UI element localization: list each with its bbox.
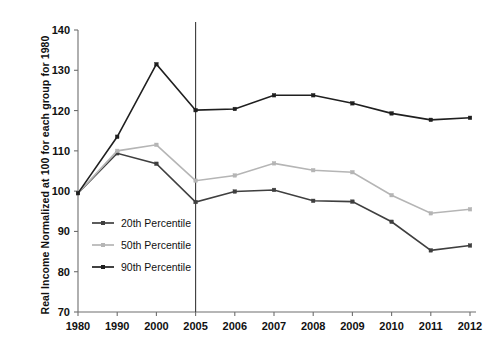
data-point-marker	[429, 118, 433, 122]
data-point-marker	[351, 170, 355, 174]
data-point-marker	[272, 188, 276, 192]
data-point-marker	[194, 108, 198, 112]
legend-item-label: 90th Percentile	[121, 261, 191, 273]
x-tick-label: 2008	[301, 320, 325, 332]
legend-item-label: 20th Percentile	[121, 217, 191, 229]
line-chart: Real Income Normalized at 100 for each g…	[0, 0, 488, 350]
y-tick-label: 120	[52, 105, 70, 117]
data-point-marker	[390, 112, 394, 116]
data-point-marker	[311, 168, 315, 172]
data-point-marker	[76, 191, 80, 195]
data-point-marker	[155, 162, 159, 166]
legend-item: 20th Percentile	[92, 217, 191, 229]
data-point-marker	[390, 193, 394, 197]
data-point-marker	[194, 200, 198, 204]
series-line	[78, 145, 470, 213]
legend-item-label: 50th Percentile	[121, 239, 191, 251]
y-axis: 708090100110120130140	[52, 24, 78, 318]
series-50th-percentile	[76, 143, 472, 215]
x-tick-label: 2011	[419, 320, 443, 332]
data-point-marker	[311, 93, 315, 97]
data-point-marker	[155, 143, 159, 147]
x-axis: 1980199020002005200620072008200920102011…	[66, 312, 482, 332]
series-90th-percentile	[76, 62, 472, 195]
x-tick-label: 2010	[379, 320, 403, 332]
legend-swatch-marker	[101, 265, 105, 269]
series-20th-percentile	[76, 151, 472, 252]
data-point-marker	[233, 107, 237, 111]
y-tick-label: 100	[52, 185, 70, 197]
y-tick-label: 130	[52, 64, 70, 76]
data-point-marker	[351, 102, 355, 106]
data-point-marker	[115, 149, 119, 153]
data-point-marker	[194, 179, 198, 183]
y-tick-label: 80	[58, 266, 70, 278]
data-point-marker	[115, 135, 119, 139]
data-point-marker	[272, 93, 276, 97]
x-tick-label: 2005	[183, 320, 207, 332]
data-point-marker	[468, 244, 472, 248]
x-tick-label: 2012	[458, 320, 482, 332]
plot-area: 708090100110120130140 198019902000200520…	[0, 0, 488, 350]
y-tick-label: 90	[58, 225, 70, 237]
y-tick-label: 140	[52, 24, 70, 36]
data-point-marker	[468, 116, 472, 120]
legend-swatch-marker	[101, 243, 105, 247]
legend-item: 50th Percentile	[92, 239, 191, 251]
data-point-marker	[468, 207, 472, 211]
data-point-marker	[390, 220, 394, 224]
series-line	[78, 64, 470, 193]
x-tick-label: 1990	[105, 320, 129, 332]
y-tick-label: 70	[58, 306, 70, 318]
x-tick-label: 2009	[340, 320, 364, 332]
data-point-marker	[351, 200, 355, 204]
legend-item: 90th Percentile	[92, 261, 191, 273]
data-point-marker	[233, 190, 237, 194]
x-tick-label: 2006	[223, 320, 247, 332]
data-point-marker	[272, 162, 276, 166]
y-tick-label: 110	[52, 145, 70, 157]
data-point-marker	[429, 212, 433, 216]
series-line	[78, 153, 470, 250]
chart-legend: 20th Percentile50th Percentile90th Perce…	[92, 217, 191, 273]
data-point-marker	[429, 249, 433, 253]
data-point-marker	[155, 62, 159, 66]
data-point-marker	[311, 199, 315, 203]
x-tick-label: 2007	[262, 320, 286, 332]
data-point-marker	[233, 174, 237, 178]
x-tick-label: 2000	[144, 320, 168, 332]
legend-swatch-marker	[101, 221, 105, 225]
x-tick-label: 1980	[66, 320, 90, 332]
